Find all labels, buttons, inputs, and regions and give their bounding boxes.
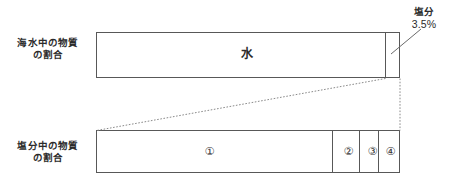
row-caption-seawater: 海水中の物質 の割合 — [2, 37, 94, 62]
expansion-line-diagonal — [97, 79, 386, 131]
bottom-bar-label-2: ② — [343, 146, 354, 157]
bottom-bar-group — [97, 131, 400, 173]
bottom-bar-label-3: ③ — [367, 146, 378, 157]
bottom-bar-label-1: ① — [204, 146, 215, 157]
top-bar-label-water: 水 — [225, 47, 269, 63]
bottom-bar-label-4: ④ — [385, 146, 396, 157]
bottom-bar-outline — [97, 131, 400, 173]
expansion-connectors — [97, 79, 401, 131]
callout-value-percent: 3.5% — [396, 18, 452, 32]
callout-label-salt: 塩分 — [398, 6, 450, 18]
row-caption-salt: 塩分中の物質 の割合 — [2, 140, 94, 165]
top-bar-segment-salt — [386, 33, 400, 78]
